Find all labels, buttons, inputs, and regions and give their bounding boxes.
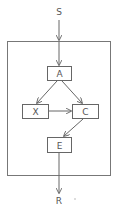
entry-label-s: S <box>56 7 62 17</box>
edge-a-to-x <box>37 81 57 103</box>
node-e-label: E <box>57 141 63 151</box>
node-c: C <box>73 105 99 119</box>
node-e: E <box>48 138 72 153</box>
exit-label-r: R <box>56 196 62 206</box>
node-a-label: A <box>56 69 63 79</box>
edge-a-to-c <box>62 81 82 103</box>
edge-c-to-e <box>64 119 83 136</box>
node-c-label: C <box>82 107 88 117</box>
node-x-label: X <box>32 107 38 117</box>
node-x: X <box>23 105 49 119</box>
node-a: A <box>48 67 72 81</box>
flow-diagram: S A X C E R <box>0 0 118 212</box>
